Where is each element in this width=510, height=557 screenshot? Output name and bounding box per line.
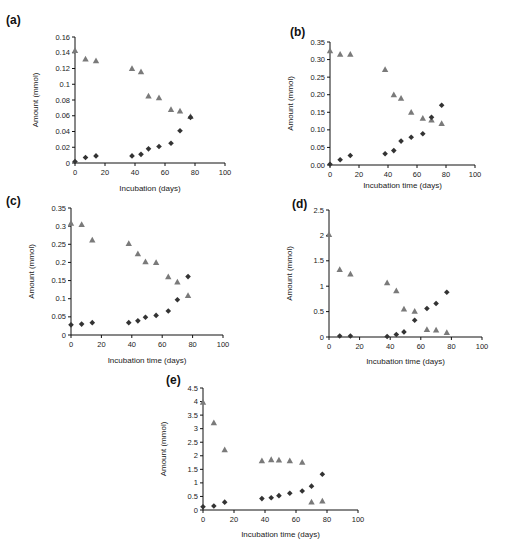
y-tick-label: 0.35 (310, 38, 325, 47)
triangle-point (424, 326, 430, 332)
panel-label: (c) (6, 194, 21, 208)
y-tick-label: 0.10 (310, 125, 325, 134)
triangle-point (89, 237, 95, 243)
x-tick-label: 40 (386, 342, 394, 351)
triangle-point (78, 221, 84, 227)
y-tick-label: 0.15 (310, 108, 325, 117)
diamond-point (391, 148, 397, 154)
x-tick-label: 0 (73, 168, 77, 177)
triangle-point (142, 259, 148, 265)
x-tick-label: 0 (328, 170, 332, 179)
x-tick-label: 40 (128, 340, 136, 349)
y-tick-label: 4.5 (188, 384, 198, 393)
x-tick-label: 60 (413, 170, 421, 179)
diamond-point (424, 306, 430, 312)
triangle-point (411, 308, 417, 314)
triangle-point (126, 240, 132, 246)
diamond-point (89, 320, 95, 326)
chart-panel-c: (c)02040608010000.050.10.150.20.250.30.3… (6, 194, 229, 365)
y-tick-label: 0.1 (60, 80, 70, 89)
triangle-point (72, 47, 78, 53)
diamond-point (211, 503, 217, 509)
y-tick-label: 1.5 (188, 465, 198, 474)
panel-label: (b) (290, 25, 305, 39)
y-tick-label: 1.5 (314, 256, 324, 265)
triangle-point (129, 65, 135, 71)
y-tick-label: 0.25 (51, 240, 66, 249)
series-diamond (200, 471, 325, 509)
triangle-point (93, 57, 99, 63)
y-tick-label: 0.00 (310, 161, 325, 170)
triangle-point (326, 231, 332, 237)
diamond-point (168, 141, 174, 147)
triangle-point (337, 266, 343, 272)
series-diamond (68, 274, 191, 328)
diamond-point (259, 496, 265, 502)
triangle-point (420, 115, 426, 121)
y-tick-label: 2.5 (188, 438, 198, 447)
diamond-point (276, 493, 282, 499)
triangle-point (145, 93, 151, 99)
y-tick-label: 0 (66, 159, 70, 168)
diamond-point (93, 153, 99, 159)
x-tick-label: 60 (292, 515, 300, 524)
diamond-point (222, 499, 228, 505)
diamond-point (177, 128, 183, 134)
diamond-point (138, 152, 144, 158)
y-tick-label: 0.5 (314, 307, 324, 316)
triangle-point (177, 108, 183, 114)
triangle-point (259, 457, 265, 463)
triangle-point (287, 457, 293, 463)
series-diamond (337, 289, 450, 339)
y-tick-label: 0.15 (51, 276, 66, 285)
x-tick-label: 100 (352, 515, 365, 524)
y-tick-label: 2 (320, 231, 324, 240)
y-tick-label: 3.5 (188, 411, 198, 420)
x-tick-label: 100 (476, 342, 489, 351)
triangle-point (433, 327, 439, 333)
diamond-point (337, 333, 343, 339)
x-axis-title: Incubation time (days) (366, 357, 445, 366)
triangle-point (347, 51, 353, 57)
series-triangle (327, 48, 445, 127)
diamond-point (382, 151, 388, 157)
x-tick-label: 0 (327, 342, 331, 351)
panel-label: (a) (6, 13, 21, 27)
triangle-point (347, 271, 353, 277)
x-tick-label: 100 (219, 168, 232, 177)
x-tick-label: 60 (158, 340, 166, 349)
triangle-point (153, 259, 159, 265)
diamond-point (348, 153, 354, 159)
diamond-point (200, 504, 206, 510)
x-axis-title: Incubation time (days) (363, 181, 442, 190)
panel-label: (d) (292, 197, 307, 211)
y-tick-label: 0.25 (310, 73, 325, 82)
x-tick-label: 80 (191, 168, 199, 177)
diamond-point (348, 333, 354, 339)
y-tick-label: 0.2 (56, 258, 66, 267)
y-tick-label: 3 (194, 424, 198, 433)
y-tick-label: 0.35 (51, 204, 66, 213)
diamond-point (165, 308, 171, 314)
diamond-point (320, 471, 326, 477)
series-diamond (327, 102, 444, 167)
triangle-point (135, 251, 141, 257)
triangle-point (401, 306, 407, 312)
x-axis-title: Incubation time (days) (108, 356, 187, 365)
triangle-point (337, 51, 343, 57)
diamond-point (156, 144, 162, 150)
y-tick-label: 1 (194, 478, 198, 487)
y-tick-label: 0.08 (55, 96, 70, 105)
triangle-point (408, 109, 414, 115)
y-tick-label: 0 (194, 506, 198, 515)
triangle-point (82, 56, 88, 62)
y-tick-label: 0.05 (51, 312, 66, 321)
y-tick-label: 0.06 (55, 111, 70, 120)
y-tick-label: 0.04 (55, 127, 70, 136)
diamond-point (175, 297, 181, 303)
y-axis-title: Amount (mmol) (27, 244, 36, 299)
y-tick-label: 0.12 (55, 64, 70, 73)
diamond-point (444, 289, 450, 295)
diamond-point (327, 161, 333, 167)
x-tick-label: 80 (442, 170, 450, 179)
